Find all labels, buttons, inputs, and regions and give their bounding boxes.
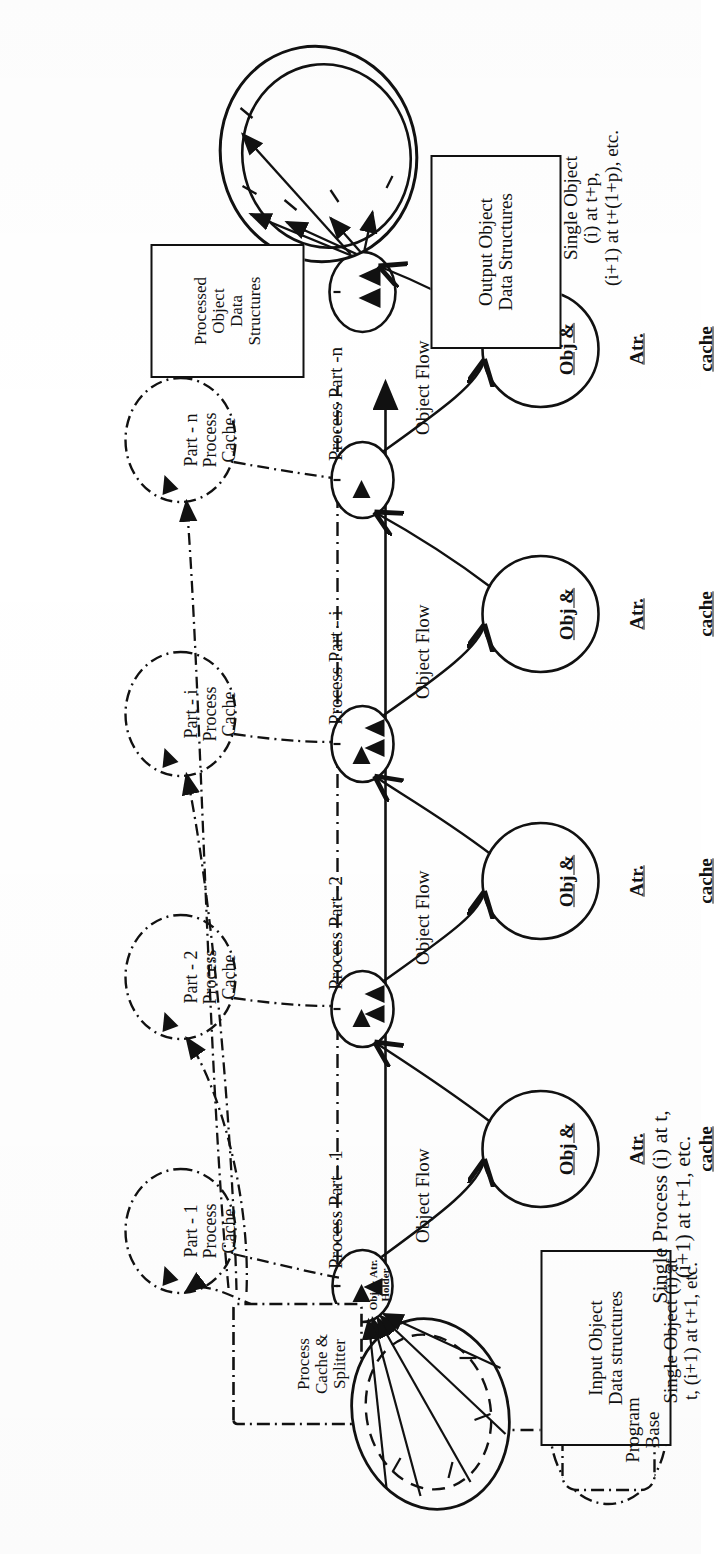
part-n-text: Part - n Process Cache — [181, 384, 238, 496]
cache-4-line1: Obj & — [554, 306, 577, 392]
part-i-text: Part - i Process Cache — [181, 658, 238, 770]
cache-circles — [482, 291, 598, 1207]
object-flow-n-text: Object Flow — [411, 341, 432, 435]
cache-2-line1: Obj & — [554, 838, 577, 924]
process-part-n-label: Process Part -n — [305, 300, 365, 480]
cache-4-line3: cache — [693, 306, 716, 392]
part-1-label: Part - 1 Process Cache — [143, 1175, 277, 1287]
cache-2-label: Obj & Atr. cache — [508, 838, 718, 924]
output-caption: Single Object (i) at t+p, (i+1) at t+(1+… — [520, 88, 661, 328]
object-flow-i-text: Object Flow — [411, 605, 432, 699]
object-flow-i-label: Object Flow — [392, 568, 452, 718]
program-base-label: Program Base — [582, 1374, 703, 1486]
part-cache-shapes — [125, 378, 235, 1293]
process-part-2-text: Process Part -2 — [324, 876, 345, 990]
part-n-label: Part - n Process Cache — [143, 384, 277, 496]
cache-2-line3: cache — [693, 838, 716, 924]
process-part-2-label: Process Part -2 — [305, 829, 365, 1009]
processed-object-label: Processed Object Data Structures — [191, 253, 263, 369]
part-cache-arrowheads — [162, 475, 178, 1286]
part-2-label: Part - 2 Process Cache — [143, 921, 277, 1033]
cache-2-line2: Atr. — [624, 838, 647, 924]
process-part-1-text: Process Part - 1 — [324, 1150, 345, 1269]
cache-4-line2: Atr. — [624, 306, 647, 392]
cache-1-line2: Atr. — [624, 1106, 647, 1192]
cache-4-label: Obj & Atr. cache — [508, 306, 718, 392]
cache-3-label: Obj & Atr. cache — [508, 571, 718, 657]
cache-3-line1: Obj & — [554, 571, 577, 657]
processed-object-box: Processed Object Data Structures — [150, 244, 304, 378]
process-part-n-text: Process Part -n — [324, 347, 345, 461]
object-flow-1-label: Object Flow — [392, 1112, 452, 1262]
cache-1-label: Obj & Atr. cache — [508, 1106, 718, 1192]
program-base-text: Program Base — [622, 1374, 662, 1486]
part-1-text: Part - 1 Process Cache — [181, 1175, 238, 1287]
part-i-label: Part - i Process Cache — [143, 658, 277, 770]
node-1-inner-text: Obj & Atr. Holder — [367, 1248, 391, 1322]
splitter-text: Process Cache & Splitter — [294, 1306, 348, 1422]
cache-1-line3: cache — [693, 1106, 716, 1192]
cache-3-line2: Atr. — [624, 571, 647, 657]
process-part-i-label: Process Part - i — [305, 564, 365, 744]
output-caption-text: Single Object (i) at t+p, (i+1) at t+(1+… — [560, 88, 620, 328]
output-object-outer-circle — [203, 31, 434, 278]
object-flow-1-text: Object Flow — [411, 1149, 432, 1243]
splitter-label: Process Cache & Splitter — [258, 1306, 384, 1422]
cache-1-line1: Obj & — [554, 1106, 577, 1192]
part-2-text: Part - 2 Process Cache — [181, 921, 238, 1033]
process-part-i-text: Process Part - i — [324, 610, 345, 725]
process-part-1-label: Process Part - 1 — [305, 1108, 365, 1288]
cache-3-line3: cache — [693, 571, 716, 657]
object-flow-2-text: Object Flow — [411, 871, 432, 965]
object-flow-2-label: Object Flow — [392, 834, 452, 984]
object-flow-n-label: Object Flow — [392, 304, 452, 454]
